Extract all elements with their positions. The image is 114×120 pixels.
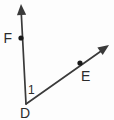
diagram-background [0,0,114,120]
point-e-marker [77,60,82,65]
vertex-d-label: D [20,105,30,120]
point-f-label: F [3,30,12,46]
geometry-figure: F E D 1 [0,0,114,120]
angle-diagram-canvas: F E D 1 [0,0,114,120]
point-e-label: E [81,68,90,84]
angle-number-label: 1 [28,83,35,97]
point-f-marker [18,35,23,40]
